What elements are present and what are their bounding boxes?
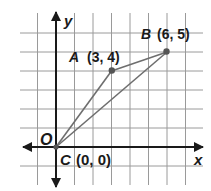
point-c-label: C (0, 0)	[60, 151, 111, 168]
point-c-name: C	[60, 151, 72, 168]
point-b-coords: (6, 5)	[157, 26, 190, 42]
point-b-label: B (6, 5)	[141, 26, 190, 42]
point-b	[163, 48, 169, 54]
point-c-coords: (0, 0)	[76, 151, 111, 168]
point-a-coords: (3, 4)	[87, 49, 120, 65]
coordinate-plane: y x O A (3, 4) B (6, 5) C (0, 0)	[0, 0, 211, 191]
point-b-name: B	[141, 26, 151, 42]
point-c	[53, 144, 58, 149]
segment-ab	[112, 52, 168, 71]
point-a-name: A	[68, 49, 79, 65]
point-a-label: A (3, 4)	[68, 49, 120, 65]
x-axis-label: x	[193, 151, 203, 168]
origin-label: O	[40, 131, 53, 148]
y-axis-label: y	[63, 12, 73, 29]
point-a	[109, 67, 115, 73]
